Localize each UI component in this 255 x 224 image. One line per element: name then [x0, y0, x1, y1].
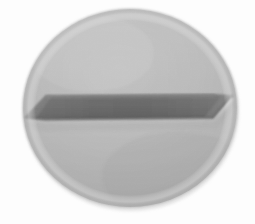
screw-head-photograph [0, 0, 255, 224]
image-canvas: slotted-screw-head [0, 0, 255, 224]
